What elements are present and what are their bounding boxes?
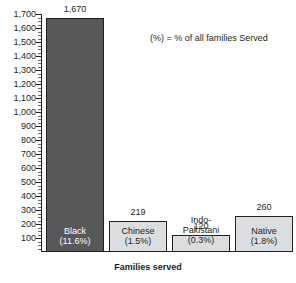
bar-category-label: Black(11.6%) [46, 226, 104, 246]
y-tick-minor [38, 32, 41, 33]
y-tick-minor [38, 221, 41, 222]
y-axis-tick-label: 600 [21, 164, 36, 173]
y-tick-minor [38, 102, 41, 103]
y-tick-minor [38, 39, 41, 40]
y-tick-major [36, 224, 41, 225]
y-tick-major [36, 182, 41, 183]
y-tick-major [36, 238, 41, 239]
y-tick-major [36, 56, 41, 57]
y-tick-minor [38, 193, 41, 194]
y-axis-tick-label: 800 [21, 136, 36, 145]
bar-category-label: Chinese(1.5%) [109, 226, 167, 246]
y-tick-minor [38, 105, 41, 106]
y-axis-tick-label: 700 [21, 150, 36, 159]
y-tick-minor [38, 151, 41, 152]
y-tick-minor [38, 147, 41, 148]
y-tick-major [36, 42, 41, 43]
plot-area: 1,670Black(11.6%)219Chinese(1.5%)120Indo… [41, 14, 292, 252]
y-tick-minor [38, 231, 41, 232]
y-tick-minor [38, 74, 41, 75]
bar-category-label: Indo-Pakistani(0.3%) [172, 215, 230, 245]
y-tick-minor [38, 228, 41, 229]
y-tick-minor [38, 186, 41, 187]
y-tick-major [36, 112, 41, 113]
y-axis-tick-label: 1,200 [13, 80, 36, 89]
y-axis-tick-label: 1,400 [13, 52, 36, 61]
y-tick-major [36, 154, 41, 155]
y-tick-minor [38, 21, 41, 22]
y-tick-minor [38, 242, 41, 243]
y-tick-minor [38, 165, 41, 166]
bar-value-label: 260 [235, 203, 293, 212]
y-tick-minor [38, 189, 41, 190]
bar-value-label: 219 [109, 208, 167, 217]
x-axis-title: Families served [0, 262, 296, 272]
bar-category-label: Native(1.8%) [235, 226, 293, 246]
y-tick-minor [38, 25, 41, 26]
y-axis-tick-label: 200 [21, 220, 36, 229]
y-axis-tick-label: 1,000 [13, 108, 36, 117]
y-axis-tick-label: 1,300 [13, 66, 36, 75]
y-tick-minor [38, 18, 41, 19]
y-tick-minor [38, 130, 41, 131]
y-tick-minor [38, 161, 41, 162]
y-tick-minor [38, 35, 41, 36]
y-tick-minor [38, 109, 41, 110]
y-tick-minor [38, 63, 41, 64]
y-axis-tick-label: 1,600 [13, 24, 36, 33]
y-tick-minor [38, 91, 41, 92]
y-tick-minor [38, 46, 41, 47]
y-tick-major [36, 70, 41, 71]
y-tick-major [36, 14, 41, 15]
y-tick-minor [38, 235, 41, 236]
y-tick-minor [38, 133, 41, 134]
y-tick-minor [38, 179, 41, 180]
y-tick-minor [38, 203, 41, 204]
y-tick-minor [38, 60, 41, 61]
y-tick-minor [38, 172, 41, 173]
bar-chart: (%) = % of all families Served 1,7001,60… [0, 0, 296, 283]
y-tick-major [36, 196, 41, 197]
y-tick-minor [38, 245, 41, 246]
y-tick-minor [38, 158, 41, 159]
y-tick-major [36, 168, 41, 169]
y-tick-minor [38, 88, 41, 89]
y-tick-minor [38, 249, 41, 250]
y-tick-minor [38, 123, 41, 124]
y-tick-major [36, 98, 41, 99]
y-tick-minor [38, 119, 41, 120]
y-axis-tick-label: 100 [21, 234, 36, 243]
y-tick-minor [38, 200, 41, 201]
y-axis-line [41, 14, 42, 252]
y-axis-tick-label: 400 [21, 192, 36, 201]
y-tick-major [36, 28, 41, 29]
y-tick-minor [38, 77, 41, 78]
y-tick-minor [38, 137, 41, 138]
y-tick-major [36, 140, 41, 141]
y-tick-minor [38, 207, 41, 208]
y-tick-minor [38, 53, 41, 54]
y-axis-tick-labels: 1,7001,6001,5001,4001,3001,2001,1001,000… [0, 14, 38, 252]
y-tick-minor [38, 144, 41, 145]
y-axis-tick-label: 1,100 [13, 94, 36, 103]
y-axis-tick-label: 1,700 [13, 10, 36, 19]
y-axis-tick-label: 500 [21, 178, 36, 187]
y-tick-minor [38, 67, 41, 68]
y-tick-minor [38, 217, 41, 218]
y-axis-tick-label: 300 [21, 206, 36, 215]
y-tick-minor [38, 214, 41, 215]
y-axis-tick-label: 900 [21, 122, 36, 131]
y-tick-major [36, 210, 41, 211]
bar-black[interactable] [46, 18, 104, 252]
y-axis-tick-label: 1,500 [13, 38, 36, 47]
y-tick-major [36, 126, 41, 127]
y-tick-minor [38, 95, 41, 96]
y-tick-minor [38, 116, 41, 117]
bar-value-label: 1,670 [46, 5, 104, 14]
y-tick-major [36, 84, 41, 85]
y-tick-minor [38, 81, 41, 82]
y-tick-minor [38, 49, 41, 50]
y-tick-minor [38, 175, 41, 176]
